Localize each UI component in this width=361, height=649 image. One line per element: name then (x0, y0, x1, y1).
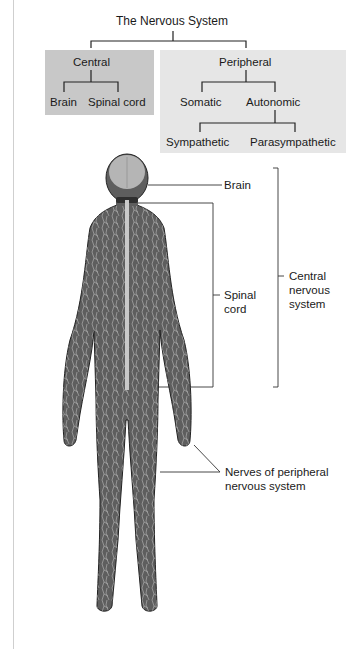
cns-label-line1: Central (289, 270, 326, 283)
body-silhouette (63, 154, 191, 611)
cns-label-line2: nervous (289, 284, 330, 297)
spinal-cord-shape (125, 200, 129, 390)
pns-label-line2: nervous system (225, 480, 306, 493)
brain-label: Brain (224, 179, 251, 192)
pns-label-line1: Nerves of peripheral (225, 466, 329, 479)
spinal-cord-label-line2: cord (224, 303, 246, 316)
spinal-cord-label-line1: Spinal (224, 289, 256, 302)
human-body-figure (0, 0, 361, 649)
cns-label-line3: system (289, 298, 325, 311)
